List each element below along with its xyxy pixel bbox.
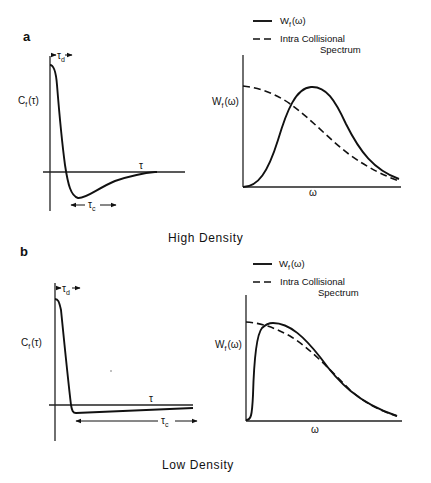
y-axis-label-wf: Wf(ω) bbox=[212, 96, 239, 109]
caption-high-density: High Density bbox=[168, 231, 243, 245]
spectrum-plot-a: Wf(ω) Intra Collisional Spectrum ω Wf(ω) bbox=[212, 15, 401, 198]
tau-d-annotation: τd bbox=[52, 50, 72, 63]
caption-low-density: Low Density bbox=[162, 458, 234, 472]
wf-spectrum-curve bbox=[243, 87, 399, 187]
panel-a: a τd τc τ Cf(τ) bbox=[18, 15, 401, 245]
legend-dashed-label-line1: Intra Collisional bbox=[280, 33, 345, 44]
x-axis-label-tau: τ bbox=[149, 393, 153, 404]
x-axis-label-omega: ω bbox=[311, 424, 319, 435]
correlation-plot-b: τd τc τ Cf(τ) bbox=[21, 283, 197, 441]
tau-d-label: τd bbox=[57, 50, 65, 63]
x-axis-label-omega: ω bbox=[309, 187, 317, 198]
tau-d-label: τd bbox=[62, 283, 70, 296]
wf-spectrum-curve bbox=[246, 323, 397, 420]
x-axis-label-tau: τ bbox=[139, 160, 143, 171]
legend-dashed-label-line1: Intra Collisional bbox=[280, 276, 345, 287]
spectrum-plot-b: Wf(ω) Intra Collisional Spectrum ω Wf(ω) bbox=[215, 258, 402, 435]
legend-solid-label: Wf(ω) bbox=[280, 15, 306, 28]
figure: a τd τc τ Cf(τ) bbox=[0, 0, 431, 483]
y-axis-label-wf: Wf(ω) bbox=[215, 339, 242, 352]
panel-label-b: b bbox=[20, 244, 28, 259]
legend-a: Wf(ω) Intra Collisional Spectrum bbox=[253, 15, 361, 55]
panel-b: b τd τc τ Cf(τ) bbox=[20, 244, 402, 472]
y-axis-label-cf: Cf(τ) bbox=[18, 95, 39, 108]
correlation-curve bbox=[55, 299, 193, 413]
tau-c-annotation: τc bbox=[76, 415, 197, 428]
legend-b: Wf(ω) Intra Collisional Spectrum bbox=[253, 258, 359, 298]
y-axis-label-cf: Cf(τ) bbox=[21, 337, 42, 350]
legend-solid-label: Wf(ω) bbox=[279, 258, 305, 271]
legend-dashed-label-line2: Spectrum bbox=[318, 287, 359, 298]
tau-c-label: τc bbox=[88, 199, 96, 212]
tau-c-annotation: τc bbox=[71, 199, 116, 212]
correlation-plot-a: τd τc τ Cf(τ) bbox=[18, 50, 185, 212]
correlation-curve bbox=[50, 65, 157, 198]
tau-d-annotation: τd bbox=[56, 283, 80, 296]
stray-dot bbox=[110, 370, 111, 371]
intra-collisional-spectrum-curve bbox=[246, 322, 397, 416]
legend-dashed-label-line2: Spectrum bbox=[320, 44, 361, 55]
panel-label-a: a bbox=[23, 29, 31, 44]
tau-c-label: τc bbox=[161, 415, 169, 428]
